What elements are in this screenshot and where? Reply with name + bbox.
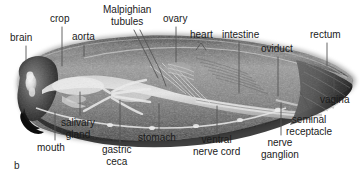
label-text: ovary [163, 13, 187, 25]
label-text: oviduct [261, 43, 293, 55]
label-text: intestine [222, 29, 259, 41]
label-ventral-nerve-cord: ventralnerve cord [193, 134, 240, 157]
label-seminal-receptacle: seminalreceptacle [286, 114, 332, 137]
label-vagina: vagina [320, 94, 349, 106]
label-brain: brain [10, 32, 32, 44]
label-text: gastric [102, 144, 131, 156]
label-text: aorta [72, 31, 95, 43]
label-text: rectum [310, 29, 341, 41]
label-text: seminal [286, 114, 332, 126]
label-gastric-ceca: gastricceca [102, 144, 131, 167]
label-text: ventral [193, 134, 240, 146]
label-ovary: ovary [163, 13, 187, 25]
label-malpighian-tubules: Malpighiantubules [103, 4, 151, 27]
label-mouth: mouth [37, 142, 65, 154]
label-text-line2: nerve cord [193, 146, 240, 158]
label-text-line2: tubules [103, 16, 151, 28]
label-text: stomach [138, 132, 176, 144]
label-text: mouth [37, 142, 65, 154]
label-text-line2: ganglion [261, 149, 299, 161]
label-text-line2: receptacle [286, 126, 332, 138]
anatomy-figure: braincropaortaMalpighiantubulesovaryhear… [0, 0, 362, 177]
label-text: nerve [261, 137, 299, 149]
label-text: heart [190, 29, 213, 41]
label-aorta: aorta [72, 31, 95, 43]
label-oviduct: oviduct [261, 43, 293, 55]
label-salivary-gland: salivarygland [61, 117, 95, 140]
label-text: crop [50, 13, 69, 25]
label-text: salivary [61, 117, 95, 129]
label-text: brain [10, 32, 32, 44]
panel-letter: b [14, 160, 20, 171]
label-text-line2: ceca [102, 156, 131, 168]
label-text: Malpighian [103, 4, 151, 16]
label-stomach: stomach [138, 132, 176, 144]
label-rectum: rectum [310, 29, 341, 41]
label-intestine: intestine [222, 29, 259, 41]
label-heart: heart [190, 29, 213, 41]
label-text: vagina [320, 94, 349, 106]
label-text-line2: gland [61, 129, 95, 141]
label-nerve-ganglion: nerveganglion [261, 137, 299, 160]
label-crop: crop [50, 13, 69, 25]
